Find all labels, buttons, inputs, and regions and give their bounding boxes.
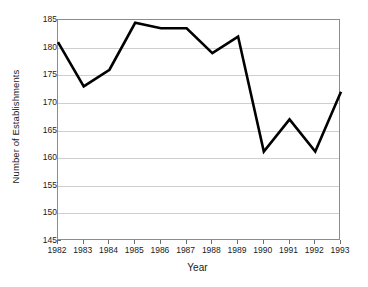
y-axis-tick-label: 185 <box>33 15 57 24</box>
series-line-path <box>58 23 341 152</box>
plot-area <box>57 19 340 240</box>
x-axis-tick-mark <box>211 240 212 244</box>
y-axis-tick-label: 160 <box>33 153 57 162</box>
line-chart: Number of Establishments 145150155160165… <box>0 0 368 287</box>
y-axis-tick-label: 155 <box>33 181 57 190</box>
x-axis-tick-mark <box>108 240 109 244</box>
x-axis-title: Year <box>55 262 340 273</box>
y-axis-tick-label: 165 <box>33 126 57 135</box>
y-axis-tick-label: 180 <box>33 43 57 52</box>
y-axis-title: Number of Establishments <box>8 4 24 249</box>
y-axis-ticks: 145150155160165170175180185 <box>27 19 57 240</box>
y-axis-tick-label: 170 <box>33 98 57 107</box>
x-axis-tick-mark <box>83 240 84 244</box>
x-axis-tick-mark <box>237 240 238 244</box>
series-line-chart <box>58 20 341 241</box>
x-axis-tick-mark <box>314 240 315 244</box>
x-axis-tick-mark <box>340 240 341 244</box>
x-axis-tick-mark <box>160 240 161 244</box>
y-axis-tick-label: 175 <box>33 70 57 79</box>
x-axis-tick-mark <box>263 240 264 244</box>
x-axis-tick-mark <box>289 240 290 244</box>
x-axis-tick-mark <box>186 240 187 244</box>
x-axis-tick-mark <box>57 240 58 244</box>
x-axis-ticks: 1982198319841985198619871988198919901991… <box>57 240 340 260</box>
x-axis-tick-mark <box>134 240 135 244</box>
y-axis-tick-label: 150 <box>33 208 57 217</box>
y-axis-tick-label: 145 <box>33 236 57 245</box>
x-axis-tick-label: 1993 <box>320 246 360 255</box>
